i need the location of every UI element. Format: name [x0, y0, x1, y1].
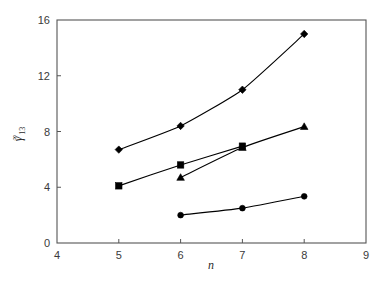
- series-triangle-line: [181, 127, 305, 178]
- series-square: [116, 143, 246, 189]
- plot-frame: [57, 20, 366, 243]
- plot-canvas: [0, 0, 386, 282]
- chart-figure: 456789 0481216 n γ∞13: [0, 0, 386, 282]
- x-axis-ticks: [119, 239, 304, 243]
- circle-marker: [240, 205, 246, 211]
- gamma-subscript: 13: [18, 127, 27, 135]
- y-tick-label: 12: [38, 70, 50, 81]
- y-tick-label: 8: [44, 126, 50, 137]
- triangle-marker: [300, 123, 308, 130]
- circle-marker: [178, 212, 184, 218]
- diamond-marker: [177, 122, 184, 129]
- diamond-marker: [115, 146, 122, 153]
- series-triangle: [177, 123, 308, 181]
- gamma-superscript: ∞: [10, 135, 19, 141]
- y-tick-label: 4: [44, 182, 50, 193]
- series-diamond-line: [119, 34, 304, 150]
- y-axis-label: γ∞13: [12, 123, 24, 141]
- y-axis-ticks: [57, 76, 61, 188]
- square-marker: [177, 162, 183, 168]
- y-tick-label: 0: [44, 238, 50, 249]
- series-circle: [178, 193, 307, 218]
- data-series-layer: [115, 30, 308, 218]
- x-tick-label: 6: [178, 250, 184, 261]
- x-tick-label: 4: [54, 250, 60, 261]
- x-axis-label: n: [208, 258, 214, 273]
- x-tick-label: 5: [116, 250, 122, 261]
- circle-marker: [301, 193, 307, 199]
- x-tick-label: 7: [239, 250, 245, 261]
- x-tick-label: 9: [363, 250, 369, 261]
- square-marker: [116, 183, 122, 189]
- y-tick-label: 16: [38, 15, 50, 26]
- triangle-marker: [177, 174, 185, 181]
- x-tick-label: 8: [301, 250, 307, 261]
